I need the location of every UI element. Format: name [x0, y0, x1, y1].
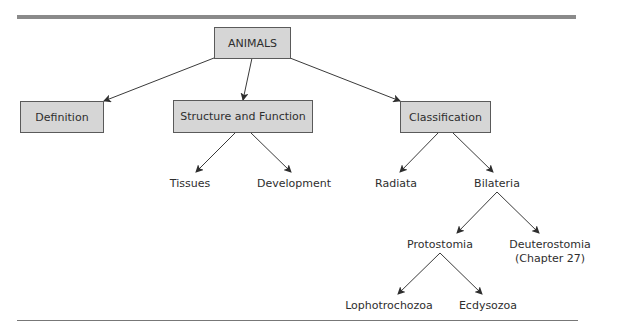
node-development: Development	[257, 177, 331, 191]
connector-arrows	[0, 0, 617, 329]
node-animals: ANIMALS	[214, 27, 291, 59]
node-deuterostomia-note: (Chapter 27)	[509, 252, 591, 266]
node-definition: Definition	[20, 101, 104, 133]
node-lophotrochozoa: Lophotrochozoa	[345, 299, 433, 313]
node-protostomia: Protostomia	[407, 238, 473, 252]
node-classification-label: Classification	[409, 111, 482, 124]
node-structure-and-function: Structure and Function	[173, 100, 313, 133]
node-classification: Classification	[400, 101, 491, 133]
node-structure-label: Structure and Function	[180, 110, 306, 123]
node-deuterostomia: Deuterostomia (Chapter 27)	[509, 238, 591, 266]
node-deuterostomia-label: Deuterostomia	[509, 238, 591, 252]
node-bilateria: Bilateria	[474, 177, 520, 191]
node-radiata: Radiata	[375, 177, 417, 191]
bottom-rule	[17, 320, 578, 321]
node-tissues: Tissues	[170, 177, 210, 191]
node-ecdysozoa: Ecdysozoa	[459, 299, 517, 313]
node-animals-label: ANIMALS	[228, 37, 277, 50]
node-definition-label: Definition	[35, 111, 88, 124]
